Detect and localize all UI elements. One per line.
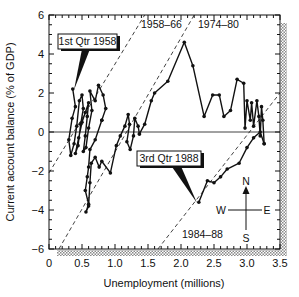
data-point xyxy=(255,99,259,103)
data-point xyxy=(143,122,147,126)
data-point xyxy=(237,161,241,165)
data-point xyxy=(128,148,132,152)
data-point xyxy=(82,150,86,154)
data-point xyxy=(80,93,84,97)
data-point xyxy=(88,89,92,93)
data-point xyxy=(133,117,137,121)
y-tick-label: 0 xyxy=(38,126,44,138)
data-point xyxy=(257,115,261,119)
data-point xyxy=(262,142,266,146)
data-point xyxy=(84,189,88,193)
data-point xyxy=(100,159,104,163)
x-tick-label: 0 xyxy=(46,257,52,269)
compass-east: E xyxy=(263,204,270,216)
data-point xyxy=(118,134,122,138)
data-point xyxy=(235,78,239,82)
data-point xyxy=(138,132,142,136)
data-point xyxy=(128,122,132,126)
data-point xyxy=(249,119,253,123)
y-tick-label: 6 xyxy=(38,9,44,21)
trend-label-1984-88: 1984–88 xyxy=(182,228,223,240)
data-point xyxy=(191,64,195,68)
data-point xyxy=(89,161,93,165)
data-point xyxy=(100,119,104,123)
data-point xyxy=(229,109,233,113)
data-point xyxy=(67,138,71,142)
data-point xyxy=(250,101,254,105)
data-point xyxy=(125,140,129,144)
data-point xyxy=(104,107,108,111)
data-point xyxy=(77,136,81,140)
y-axis-title: Current account balance (% of GDP) xyxy=(4,42,16,221)
data-point xyxy=(245,99,249,103)
x-tick-label: 0.5 xyxy=(74,257,89,269)
data-point xyxy=(84,146,88,150)
data-point xyxy=(70,117,74,121)
data-point xyxy=(243,126,247,130)
data-point xyxy=(88,181,92,185)
x-tick-label: 1.0 xyxy=(107,257,122,269)
data-point xyxy=(153,91,157,95)
data-point xyxy=(115,144,119,148)
data-point xyxy=(85,175,89,179)
data-point xyxy=(126,113,130,117)
data-point xyxy=(166,80,170,84)
data-point xyxy=(123,124,127,128)
data-point xyxy=(93,138,97,142)
data-point xyxy=(202,115,206,119)
trend-label-1958-66: 1958–66 xyxy=(141,18,182,30)
data-point xyxy=(132,134,136,138)
y-tick-label: 4 xyxy=(38,48,44,60)
data-point xyxy=(85,115,89,119)
y-tick-label: −4 xyxy=(31,204,44,216)
data-point xyxy=(93,99,97,103)
data-point xyxy=(69,154,73,158)
data-point xyxy=(87,165,91,169)
data-point xyxy=(101,93,105,97)
x-tick-label: 3.0 xyxy=(239,257,254,269)
data-point xyxy=(252,124,256,128)
data-point xyxy=(88,148,92,152)
y-tick-label: −6 xyxy=(31,243,44,255)
data-point xyxy=(74,105,78,109)
data-point xyxy=(212,181,216,185)
data-point xyxy=(252,136,256,140)
phillips-curve-chart: 00.51.01.52.02.53.03.5−6−4−20246 Unemplo… xyxy=(0,0,299,297)
data-point xyxy=(222,115,226,119)
x-tick-label: 3.5 xyxy=(272,257,287,269)
trend-label-1974-80: 1974–80 xyxy=(198,18,239,30)
data-point xyxy=(72,142,76,146)
data-point xyxy=(242,81,246,85)
callout-2-text: 3rd Qtr 1988 xyxy=(140,152,199,164)
compass-north: N xyxy=(242,175,250,187)
data-point xyxy=(136,124,140,128)
data-point xyxy=(84,134,88,138)
y-tick-label: −2 xyxy=(31,165,44,177)
data-point xyxy=(75,124,79,128)
data-point xyxy=(245,146,249,150)
data-point xyxy=(217,93,221,97)
compass-west: W xyxy=(216,204,226,216)
data-point xyxy=(225,167,229,171)
data-point xyxy=(74,152,78,156)
data-point xyxy=(109,171,113,175)
data-point xyxy=(211,93,215,97)
x-tick-label: 2.0 xyxy=(173,257,188,269)
compass-south: S xyxy=(242,232,249,244)
data-point xyxy=(260,105,264,109)
data-point xyxy=(261,119,265,123)
data-point xyxy=(219,175,223,179)
data-point xyxy=(84,111,88,115)
data-point xyxy=(71,87,75,91)
x-tick-label: 1.5 xyxy=(140,257,155,269)
data-point xyxy=(80,120,84,124)
frame-shadow-bottom xyxy=(57,250,287,256)
data-point xyxy=(97,83,101,87)
frame-shadow-right xyxy=(281,23,287,255)
data-point xyxy=(258,130,262,134)
data-point xyxy=(78,99,82,103)
data-point xyxy=(87,204,91,208)
data-point xyxy=(87,101,91,105)
data-point xyxy=(84,210,88,214)
y-tick-label: 2 xyxy=(38,87,44,99)
